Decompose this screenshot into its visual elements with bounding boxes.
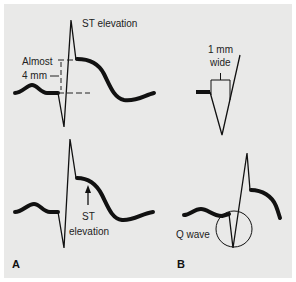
- one-mm-label: 1 mm: [208, 44, 233, 55]
- wide-label: wide: [209, 57, 231, 68]
- st-elevation-title: ST elevation: [82, 18, 137, 29]
- panel-b-top-ecg: 1 mm wide: [196, 44, 240, 135]
- st-segment-t-wave: [251, 190, 280, 218]
- four-mm-label: 4 mm: [22, 70, 47, 81]
- st-label: ST: [82, 211, 95, 222]
- panel-label-b: B: [177, 258, 185, 270]
- p-wave-baseline: [15, 85, 58, 93]
- p-wave-baseline: [15, 204, 58, 212]
- ecg-diagram: ST elevation Almost 4 mm ST elevation A …: [0, 0, 296, 282]
- panel-b-bottom-ecg: Q wave: [176, 153, 280, 248]
- width-bracket: [211, 73, 230, 100]
- arrow-up-icon: [85, 185, 91, 193]
- almost-label: Almost: [22, 56, 53, 67]
- panel-a-bottom-ecg: ST elevation: [15, 139, 153, 248]
- q-wave-label: Q wave: [176, 229, 210, 240]
- panel-a-top-ecg: ST elevation Almost 4 mm: [15, 18, 154, 127]
- panel-label-a: A: [12, 258, 20, 270]
- st-segment-t-wave: [77, 59, 154, 100]
- qrs-complex: [229, 153, 250, 248]
- elevation-label: elevation: [69, 226, 109, 237]
